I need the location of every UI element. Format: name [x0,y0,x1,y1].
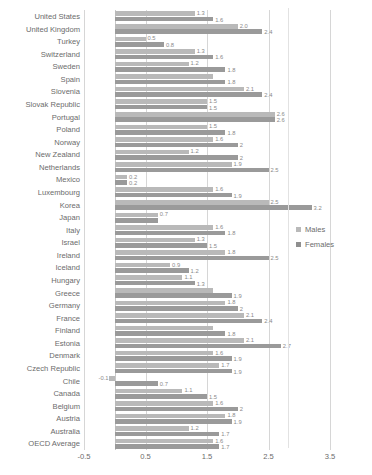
bar-value-label: 1.6 [215,136,223,142]
bar-males [115,414,226,419]
bar-females [115,231,226,236]
bar-females [115,193,232,198]
bar-males [115,175,127,180]
bar-value-label: 1.2 [191,60,199,66]
plot-area: 1.31.62.02.40.50.81.31.61.21.81.82.12.41… [84,10,330,450]
bar-females [115,281,195,286]
bar-males [115,112,275,117]
bar-value-label: 1.6 [215,400,223,406]
x-tick-label: 2.5 [263,452,274,461]
bar-rows: 1.31.62.02.40.50.81.31.61.21.81.82.12.41… [84,10,330,450]
bar-females [115,29,263,34]
bar-females [115,407,238,412]
bar-value-label: 2.5 [271,199,279,205]
bar-value-label: 0.7 [160,211,168,217]
bar-value-label: 1.8 [227,412,235,418]
bar-females [115,344,281,349]
bar-females [115,369,232,374]
bar-females [115,243,207,248]
bar-males [115,238,195,243]
bar-males [115,401,213,406]
bar-females [115,67,226,72]
bar-value-label: 2.6 [277,111,285,117]
bar-males [115,288,213,293]
bar-females [115,205,312,210]
bar-value-label: 1.8 [227,299,235,305]
bar-females [115,419,232,424]
bar-females [115,17,213,22]
bar-females [115,381,158,386]
bar-males [115,363,220,368]
bar-females [115,444,220,449]
bar-females [115,432,220,437]
bar-value-label: 0.5 [148,35,156,41]
bar-value-label: 0.9 [172,262,180,268]
bar-females [115,92,263,97]
bar-males [115,62,189,67]
bar-value-label: 1.5 [209,98,217,104]
bar-chart: United StatesUnited KingdomTurkeySwitzer… [0,0,372,475]
bar-females [115,143,238,148]
bar-value-label: 2.0 [240,23,248,29]
legend-item-females[interactable]: Females [296,237,368,252]
x-tick-label: -0.5 [77,452,90,461]
bar-males [115,150,189,155]
bar-females [115,168,269,173]
bar-females [115,268,189,273]
chart-legend: Males Females [296,222,368,252]
bar-value-label: 1.6 [215,186,223,192]
bar-value-label: 1.3 [197,10,205,16]
bar-males [115,37,146,42]
bar-males [115,137,213,142]
bar-value-label: 1.6 [215,224,223,230]
bar-value-label: 2.1 [246,337,254,343]
x-tick-label: 3.5 [325,452,336,461]
bar-males [115,301,226,306]
category-axis-labels: United StatesUnited KingdomTurkeySwitzer… [0,10,82,450]
bar-females [115,155,238,160]
bar-males [115,162,232,167]
bar-females [115,42,164,47]
bar-males [115,200,269,205]
x-axis: -0.50.51.52.53.5 [84,450,330,470]
bar-females [115,319,263,324]
bar-females [115,218,158,223]
bar-males [115,187,213,192]
legend-label-males: Males [305,225,325,234]
bar-value-label: 1.3 [197,48,205,54]
legend-swatch-males-icon [296,227,301,232]
bar-value-label: 0.2 [129,174,137,180]
bar-value-label: 1.7 [221,362,229,368]
bar-value-label: -0.1 [99,375,109,381]
bar-females [115,356,232,361]
legend-item-males[interactable]: Males [296,222,368,237]
bar-males [115,439,213,444]
bar-males [115,351,213,356]
bar-males [109,376,115,381]
bar-females [115,306,238,311]
bar-males [115,426,189,431]
bar-value-label: 1.6 [215,438,223,444]
bar-females [115,130,226,135]
bar-males [115,326,213,331]
legend-label-females: Females [305,240,334,249]
bar-males [115,213,158,218]
bar-males [115,74,213,79]
x-tick-label: 1.5 [202,452,213,461]
bar-females [115,293,232,298]
bar-males [115,250,226,255]
bar-value-label: 1.2 [191,148,199,154]
bar-value-label: 1.5 [209,123,217,129]
bar-value-label: 2.1 [246,86,254,92]
bar-females [115,256,269,261]
bar-value-label: 1.8 [227,249,235,255]
bar-value-label: 1.1 [184,274,192,280]
bar-females [115,331,226,336]
bar-males [115,275,183,280]
bar-males [115,87,244,92]
bar-females [115,117,275,122]
bar-value-label: 1.9 [234,161,242,167]
bar-females [115,80,226,85]
bar-males [115,99,207,104]
bar-males [115,125,207,130]
